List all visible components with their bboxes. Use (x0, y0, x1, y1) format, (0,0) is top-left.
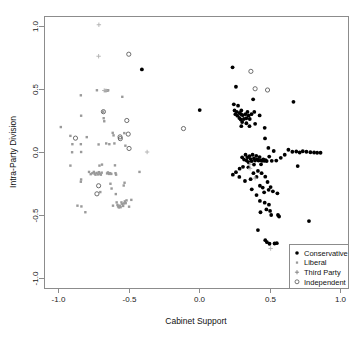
point-marker (69, 135, 71, 137)
point-marker (80, 178, 82, 180)
point-marker (112, 132, 114, 134)
point-marker (296, 261, 298, 263)
x-tick-label: 0.5 (265, 295, 277, 304)
point-marker (103, 120, 105, 122)
point-marker (115, 201, 117, 203)
point-marker (275, 191, 279, 195)
point-marker (125, 118, 129, 122)
point-marker (123, 182, 125, 184)
point-marker (122, 205, 124, 207)
legend-item-label: Independent (304, 278, 347, 287)
point-marker (252, 110, 256, 114)
series-liberal (60, 89, 141, 213)
point-marker (130, 199, 132, 201)
point-marker (88, 171, 90, 173)
point-marker (80, 115, 82, 117)
point-marker (80, 181, 82, 183)
point-marker (123, 132, 125, 134)
point-marker (105, 142, 107, 144)
point-marker (248, 124, 252, 128)
series-independent (73, 52, 269, 196)
point-marker (286, 148, 290, 152)
legend-item-label: Conservative (304, 249, 348, 258)
y-tick-label: 0.5 (31, 83, 40, 95)
point-marker (96, 89, 98, 91)
point-marker (252, 171, 256, 175)
point-marker (250, 187, 254, 191)
point-marker (296, 164, 300, 168)
point-marker (236, 104, 240, 108)
point-marker (267, 155, 271, 159)
point-marker (267, 203, 271, 207)
scatter-plot-figure: -1.0-0.50.00.51.01.00.50.0-0.5-1.0Cabine… (0, 0, 363, 338)
point-marker (263, 201, 267, 205)
point-marker (113, 142, 115, 144)
point-marker (248, 117, 252, 121)
point-marker (263, 175, 267, 179)
point-marker (261, 186, 265, 190)
point-marker (98, 164, 100, 166)
point-marker (290, 150, 294, 154)
point-marker (145, 150, 149, 154)
point-marker (251, 97, 255, 101)
point-marker (258, 199, 262, 203)
point-marker (292, 100, 296, 104)
point-marker (239, 124, 243, 128)
point-marker (231, 173, 235, 177)
y-axis-title: Intra-Party Division (8, 116, 18, 188)
point-marker (128, 205, 130, 207)
y-tick-label: -0.5 (31, 208, 40, 222)
point-marker (86, 136, 88, 138)
x-tick-label: -0.5 (123, 295, 137, 304)
point-marker (246, 110, 250, 114)
point-marker (253, 87, 257, 91)
point-marker (84, 211, 86, 213)
point-marker (138, 171, 140, 173)
point-marker (268, 246, 272, 250)
point-marker (108, 143, 110, 145)
point-marker (251, 153, 255, 157)
point-marker (80, 143, 82, 145)
point-marker (71, 151, 73, 153)
point-marker (102, 110, 104, 112)
point-marker (95, 192, 99, 196)
point-marker (73, 136, 77, 140)
point-marker (263, 136, 267, 140)
point-marker (277, 215, 281, 219)
point-marker (110, 187, 112, 189)
point-marker (101, 163, 103, 165)
y-tick-label: 1.0 (31, 20, 40, 32)
point-marker (254, 154, 258, 158)
point-marker (238, 167, 242, 171)
point-marker (315, 151, 319, 155)
y-tick-label: 0.0 (31, 146, 40, 158)
point-marker (274, 159, 278, 163)
point-marker (232, 102, 236, 106)
point-marker (258, 155, 262, 159)
point-marker (102, 117, 104, 119)
point-marker (101, 171, 103, 173)
point-marker (198, 108, 202, 112)
point-marker (269, 185, 273, 189)
point-marker (125, 199, 127, 201)
point-marker (231, 65, 235, 69)
point-marker (110, 173, 112, 175)
point-marker (253, 122, 257, 126)
point-marker (124, 145, 126, 147)
point-marker (124, 202, 126, 204)
data-points-layer (60, 23, 323, 251)
point-marker (241, 165, 245, 169)
point-marker (123, 184, 125, 186)
point-marker (69, 164, 71, 166)
point-marker (262, 190, 266, 194)
point-marker (112, 204, 114, 206)
point-marker (140, 68, 144, 72)
point-marker (80, 205, 82, 207)
point-marker (97, 23, 101, 27)
point-marker (272, 149, 276, 153)
point-marker (268, 209, 272, 213)
point-marker (263, 126, 267, 130)
point-marker (270, 159, 274, 163)
point-marker (301, 149, 305, 153)
point-marker (127, 52, 131, 56)
